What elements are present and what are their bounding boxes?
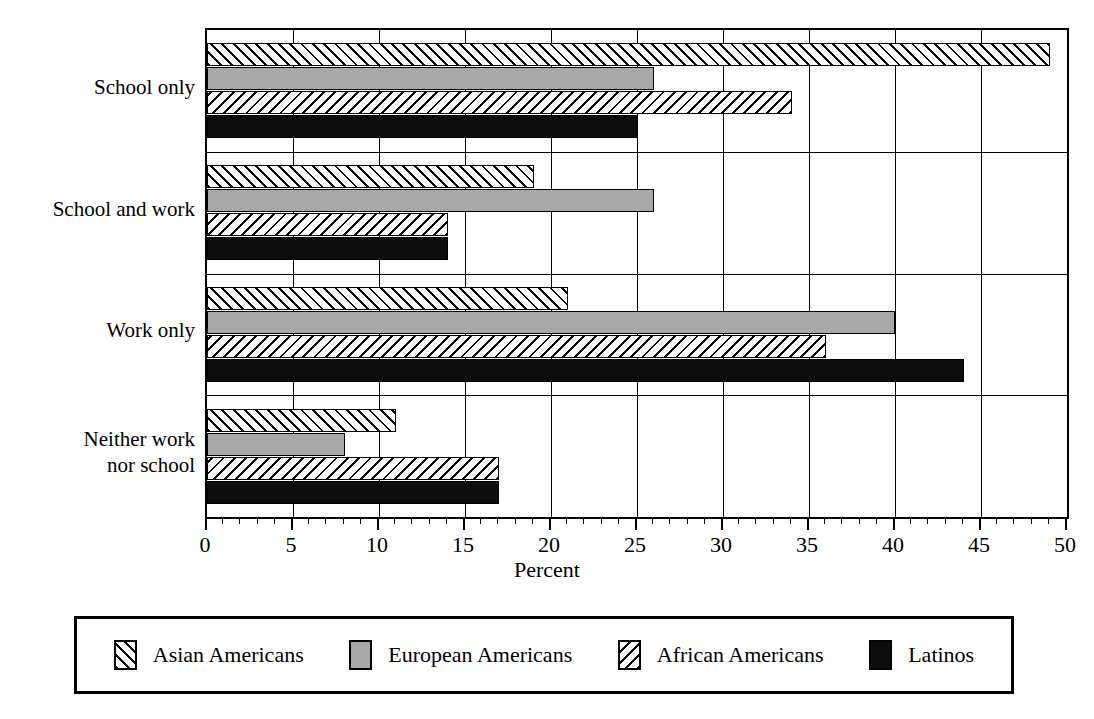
bar xyxy=(207,481,499,504)
bar xyxy=(207,91,792,114)
x-axis-minor-tick xyxy=(876,517,877,524)
y-axis-category-label: Work only xyxy=(5,317,195,343)
legend-label: European Americans xyxy=(388,642,572,668)
x-axis-minor-tick xyxy=(411,517,412,524)
group-separator xyxy=(207,274,1067,275)
y-axis-category-label-line: School and work xyxy=(5,196,195,222)
x-axis-tick-label: 40 xyxy=(873,532,913,558)
bar xyxy=(207,115,637,138)
bar xyxy=(207,287,568,310)
x-axis-minor-tick xyxy=(773,517,774,524)
x-axis-minor-tick xyxy=(515,517,516,524)
bar xyxy=(207,189,654,212)
x-axis-minor-tick xyxy=(308,517,309,524)
x-axis-minor-tick xyxy=(669,517,670,524)
legend-label: African Americans xyxy=(657,642,824,668)
y-axis-category-label-line: School only xyxy=(5,74,195,100)
x-axis: 05101520253035404550 xyxy=(205,517,1067,518)
x-axis-minor-tick xyxy=(910,517,911,524)
x-axis-minor-tick xyxy=(927,517,928,524)
legend-item[interactable]: Asian Americans xyxy=(114,640,304,670)
x-axis-major-tick xyxy=(979,517,981,530)
x-axis-minor-tick xyxy=(429,517,430,524)
x-axis-tick-label: 50 xyxy=(1045,532,1085,558)
x-axis-minor-tick xyxy=(1048,517,1049,524)
y-axis-category-label-line: nor school xyxy=(5,452,195,478)
x-axis-tick-label: 10 xyxy=(357,532,397,558)
x-axis-title: Percent xyxy=(0,557,1094,583)
bar xyxy=(207,311,895,334)
x-axis-major-tick xyxy=(291,517,293,530)
x-axis-tick-label: 25 xyxy=(615,532,655,558)
bar xyxy=(207,165,534,188)
x-axis-major-tick xyxy=(549,517,551,530)
x-axis-minor-tick xyxy=(704,517,705,524)
x-axis-minor-tick xyxy=(222,517,223,524)
legend-item[interactable]: European Americans xyxy=(349,640,572,670)
x-axis-minor-tick xyxy=(996,517,997,524)
plot-area xyxy=(205,28,1069,519)
x-axis-minor-tick xyxy=(566,517,567,524)
legend-swatch-icon xyxy=(349,640,372,670)
x-axis-tick-label: 0 xyxy=(185,532,225,558)
x-axis-minor-tick xyxy=(257,517,258,524)
bar xyxy=(207,335,826,358)
x-axis-tick-label: 45 xyxy=(959,532,999,558)
legend-label: Latinos xyxy=(908,642,974,668)
x-axis-minor-tick xyxy=(1013,517,1014,524)
x-axis-minor-tick xyxy=(841,517,842,524)
x-axis-minor-tick xyxy=(325,517,326,524)
x-axis-minor-tick xyxy=(962,517,963,524)
x-axis-minor-tick xyxy=(394,517,395,524)
x-axis-minor-tick xyxy=(532,517,533,524)
legend-item[interactable]: African Americans xyxy=(618,640,824,670)
x-axis-minor-tick xyxy=(274,517,275,524)
group-separator xyxy=(207,395,1067,396)
x-axis-minor-tick xyxy=(859,517,860,524)
x-axis-minor-tick xyxy=(738,517,739,524)
x-axis-major-tick xyxy=(1065,517,1067,530)
x-axis-minor-tick xyxy=(652,517,653,524)
x-axis-major-tick xyxy=(205,517,207,530)
x-axis-minor-tick xyxy=(687,517,688,524)
bar xyxy=(207,409,396,432)
x-axis-minor-tick xyxy=(446,517,447,524)
x-axis-tick-label: 5 xyxy=(271,532,311,558)
x-axis-major-tick xyxy=(721,517,723,530)
x-axis-tick-label: 35 xyxy=(787,532,827,558)
group-separator xyxy=(207,152,1067,153)
y-axis-category-label: School only xyxy=(5,74,195,100)
x-axis-minor-tick xyxy=(497,517,498,524)
x-axis-tick-label: 30 xyxy=(701,532,741,558)
legend-swatch-icon xyxy=(869,640,892,670)
x-axis-minor-tick xyxy=(824,517,825,524)
bar xyxy=(207,213,448,236)
x-axis-major-tick xyxy=(635,517,637,530)
x-axis-minor-tick xyxy=(239,517,240,524)
x-axis-minor-tick xyxy=(583,517,584,524)
x-axis-major-tick xyxy=(377,517,379,530)
x-axis-tick-label: 20 xyxy=(529,532,569,558)
bar xyxy=(207,433,345,456)
legend-item[interactable]: Latinos xyxy=(869,640,974,670)
y-axis-category-label: School and work xyxy=(5,196,195,222)
x-axis-minor-tick xyxy=(1031,517,1032,524)
legend-swatch-icon xyxy=(114,640,137,670)
x-axis-minor-tick xyxy=(601,517,602,524)
chart-figure: School onlySchool and workWork onlyNeith… xyxy=(0,0,1094,719)
x-axis-major-tick xyxy=(807,517,809,530)
bar xyxy=(207,237,448,260)
x-axis-major-tick xyxy=(893,517,895,530)
x-axis-minor-tick xyxy=(755,517,756,524)
bar xyxy=(207,67,654,90)
x-axis-minor-tick xyxy=(360,517,361,524)
x-axis-minor-tick xyxy=(790,517,791,524)
bar xyxy=(207,359,964,382)
x-axis-minor-tick xyxy=(480,517,481,524)
y-axis-category-label: Neither worknor school xyxy=(5,426,195,478)
bar xyxy=(207,43,1050,66)
legend-swatch-icon xyxy=(618,640,641,670)
x-axis-major-tick xyxy=(463,517,465,530)
x-axis-minor-tick xyxy=(945,517,946,524)
chart-legend: Asian AmericansEuropean AmericansAfrican… xyxy=(74,616,1014,694)
